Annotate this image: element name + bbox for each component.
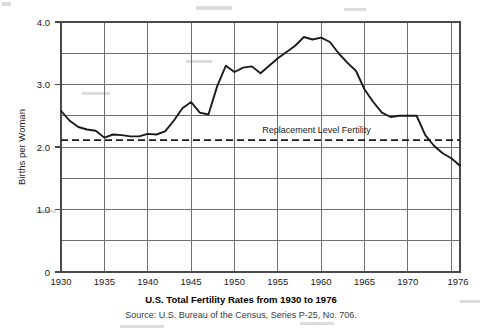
replacement-level-label: Replacement Level Fertility bbox=[262, 125, 371, 135]
x-tick-label-1955: 1955 bbox=[267, 276, 288, 287]
x-tick-label-1960: 1960 bbox=[311, 276, 332, 287]
y-tick-label-2: 2.0 bbox=[37, 142, 50, 153]
x-tick-label-1940: 1940 bbox=[137, 276, 158, 287]
y-tick-label-3: 3.0 bbox=[37, 79, 50, 90]
chart-source: Source: U.S. Bureau of the Census, Serie… bbox=[125, 310, 357, 320]
fertility-rate-line-chart: 4.0 3.0 2.0 1.0 0 Births per Woman 1930 … bbox=[0, 0, 483, 335]
x-tick-label-1965: 1965 bbox=[354, 276, 375, 287]
horizontal-gridlines bbox=[61, 22, 460, 272]
fertility-rate-data-line bbox=[61, 37, 460, 166]
x-tick-label-1970: 1970 bbox=[397, 276, 418, 287]
chart-title: U.S. Total Fertility Rates from 1930 to … bbox=[145, 294, 336, 305]
x-tick-label-1976: 1976 bbox=[447, 276, 468, 287]
y-axis-label: Births per Woman bbox=[16, 109, 27, 185]
y-tick-label-4: 4.0 bbox=[37, 17, 50, 28]
x-tick-label-1950: 1950 bbox=[224, 276, 245, 287]
y-axis-ticks bbox=[55, 22, 61, 272]
x-tick-label-1930: 1930 bbox=[50, 276, 71, 287]
x-tick-label-1945: 1945 bbox=[181, 276, 202, 287]
y-tick-label-1: 1.0 bbox=[37, 204, 50, 215]
figure-container: 4.0 3.0 2.0 1.0 0 Births per Woman 1930 … bbox=[0, 0, 483, 335]
y-tick-label-0: 0 bbox=[45, 267, 50, 278]
x-tick-label-1935: 1935 bbox=[94, 276, 115, 287]
